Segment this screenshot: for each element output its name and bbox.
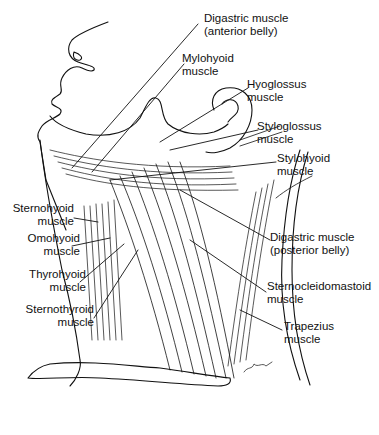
clavicle: [28, 363, 230, 386]
label-hyoglossus: Hyoglossus muscle: [247, 78, 306, 104]
label-digastric-posterior: Digastric muscle (posterior belly): [270, 231, 354, 257]
label-digastric-anterior: Digastric muscle (anterior belly): [204, 12, 288, 38]
label-trapezius: Trapezius muscle: [284, 320, 334, 346]
label-styloglossus: Styloglossus muscle: [257, 120, 322, 146]
sternocleidomastoid-muscle: [110, 162, 234, 378]
label-sternohyoid: Sternohyoid muscle: [10, 202, 74, 228]
label-sternothyroid: Sternothyroid muscle: [8, 303, 94, 329]
artist-signature: [244, 362, 272, 372]
suprahyoid-fibers: [50, 150, 238, 190]
label-omohyoid: Omohyoid muscle: [10, 232, 80, 258]
trapezius-fibers: [228, 180, 274, 366]
label-thyrohyoid: Thyrohyoid muscle: [10, 268, 86, 294]
neck-muscles-diagram: Digastric muscle (anterior belly) Mylohy…: [0, 0, 379, 435]
label-mylohyoid: Mylohyoid muscle: [182, 52, 234, 78]
label-sternocleidomastoid: Sternocleidomastoid muscle: [267, 280, 371, 306]
label-stylohyoid: Stylohyoid muscle: [277, 152, 330, 178]
